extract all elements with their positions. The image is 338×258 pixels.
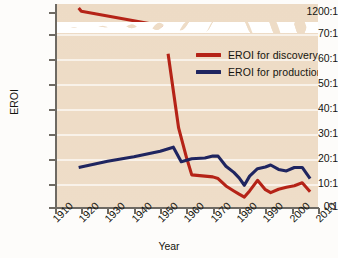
y-tick-label-20: 20:1 [291, 152, 338, 164]
y-tick-mark-60 [49, 59, 55, 61]
y-axis-line [55, 4, 57, 208]
legend-swatch-discovery-icon [196, 53, 221, 57]
x-tick-label-1910: 1910 [50, 199, 75, 224]
y-tick-mark-1200 [49, 12, 55, 14]
y-tick-mark-40 [49, 109, 55, 111]
y-tick-label-30: 30:1 [291, 127, 338, 139]
y-axis-title: EROI [8, 72, 20, 132]
series-container [55, 4, 318, 207]
y-tick-label-70: 70:1 [291, 27, 338, 39]
line-eroi-for-production [79, 147, 310, 185]
y-tick-mark-70 [49, 34, 55, 36]
y-tick-mark-50 [49, 84, 55, 86]
y-tick-label-40: 40:1 [291, 102, 338, 114]
y-tick-label-60: 60:1 [291, 52, 338, 64]
eroi-chart-figure: EROI for discovery EROI for production 1… [0, 0, 338, 258]
y-tick-label-50: 50:1 [291, 77, 338, 89]
y-tick-mark-30 [49, 134, 55, 136]
x-axis-title: Year [0, 240, 338, 252]
y-tick-label-1200: 1200:1 [291, 5, 338, 17]
y-tick-mark-10 [49, 184, 55, 186]
y-tick-label-10: 10:1 [291, 177, 338, 189]
legend-swatch-production-icon [196, 70, 221, 74]
y-tick-mark-20 [49, 159, 55, 161]
plot-area: EROI for discovery EROI for production [55, 4, 318, 207]
